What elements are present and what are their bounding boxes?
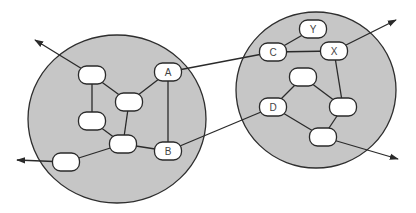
node-box — [310, 128, 337, 146]
node-box — [330, 98, 357, 116]
node-label: A — [165, 67, 172, 78]
node-Y: Y — [300, 20, 327, 38]
node-L2 — [116, 93, 143, 111]
node-box — [290, 68, 317, 86]
node-label: D — [269, 102, 276, 113]
node-label: B — [165, 146, 172, 157]
node-L5 — [53, 153, 80, 171]
node-R1 — [290, 68, 317, 86]
node-X: X — [321, 42, 348, 60]
node-box — [79, 66, 106, 84]
node-label: C — [269, 47, 276, 58]
left-network-region — [28, 35, 206, 203]
node-R3 — [310, 128, 337, 146]
node-L3 — [79, 112, 106, 130]
node-L1 — [79, 66, 106, 84]
node-label: X — [331, 46, 338, 57]
node-A: A — [155, 63, 182, 81]
node-box — [116, 93, 143, 111]
network-diagram: ABYCXD — [0, 0, 416, 213]
node-label: Y — [310, 24, 317, 35]
node-box — [53, 153, 80, 171]
node-R2 — [330, 98, 357, 116]
node-D: D — [260, 98, 287, 116]
node-box — [79, 112, 106, 130]
node-B: B — [155, 142, 182, 160]
node-box — [110, 135, 137, 153]
node-L4 — [110, 135, 137, 153]
node-C: C — [260, 43, 287, 61]
